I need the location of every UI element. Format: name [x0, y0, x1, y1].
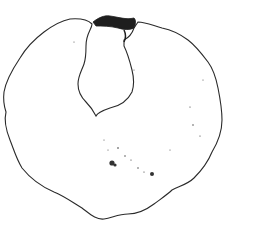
- disc-outline: [4, 19, 222, 219]
- disc-outline-drawing: [0, 0, 264, 228]
- drawing-canvas: [0, 0, 264, 228]
- suspension-loop: [93, 16, 136, 30]
- surface-speckles: [74, 42, 204, 177]
